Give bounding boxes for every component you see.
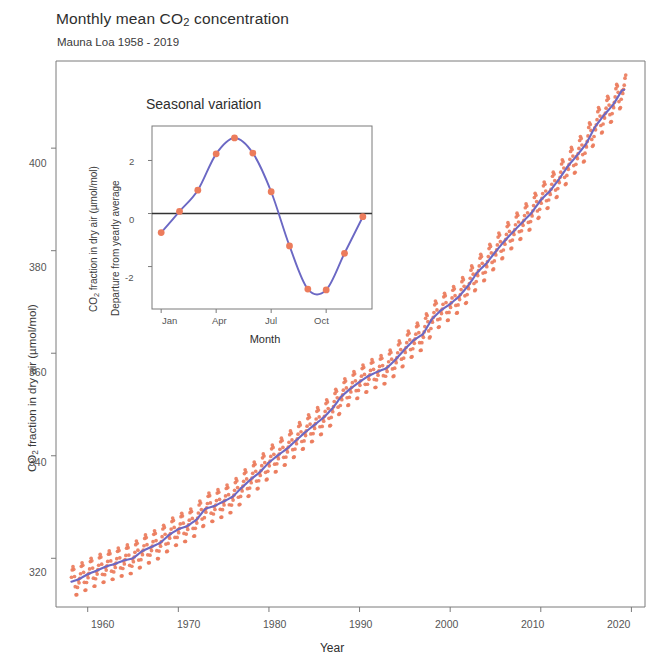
inset-axes-frame <box>148 126 372 313</box>
co2-figure: Monthly mean CO2 concentration Mauna Loa… <box>0 0 658 663</box>
plot-canvas <box>0 0 658 663</box>
